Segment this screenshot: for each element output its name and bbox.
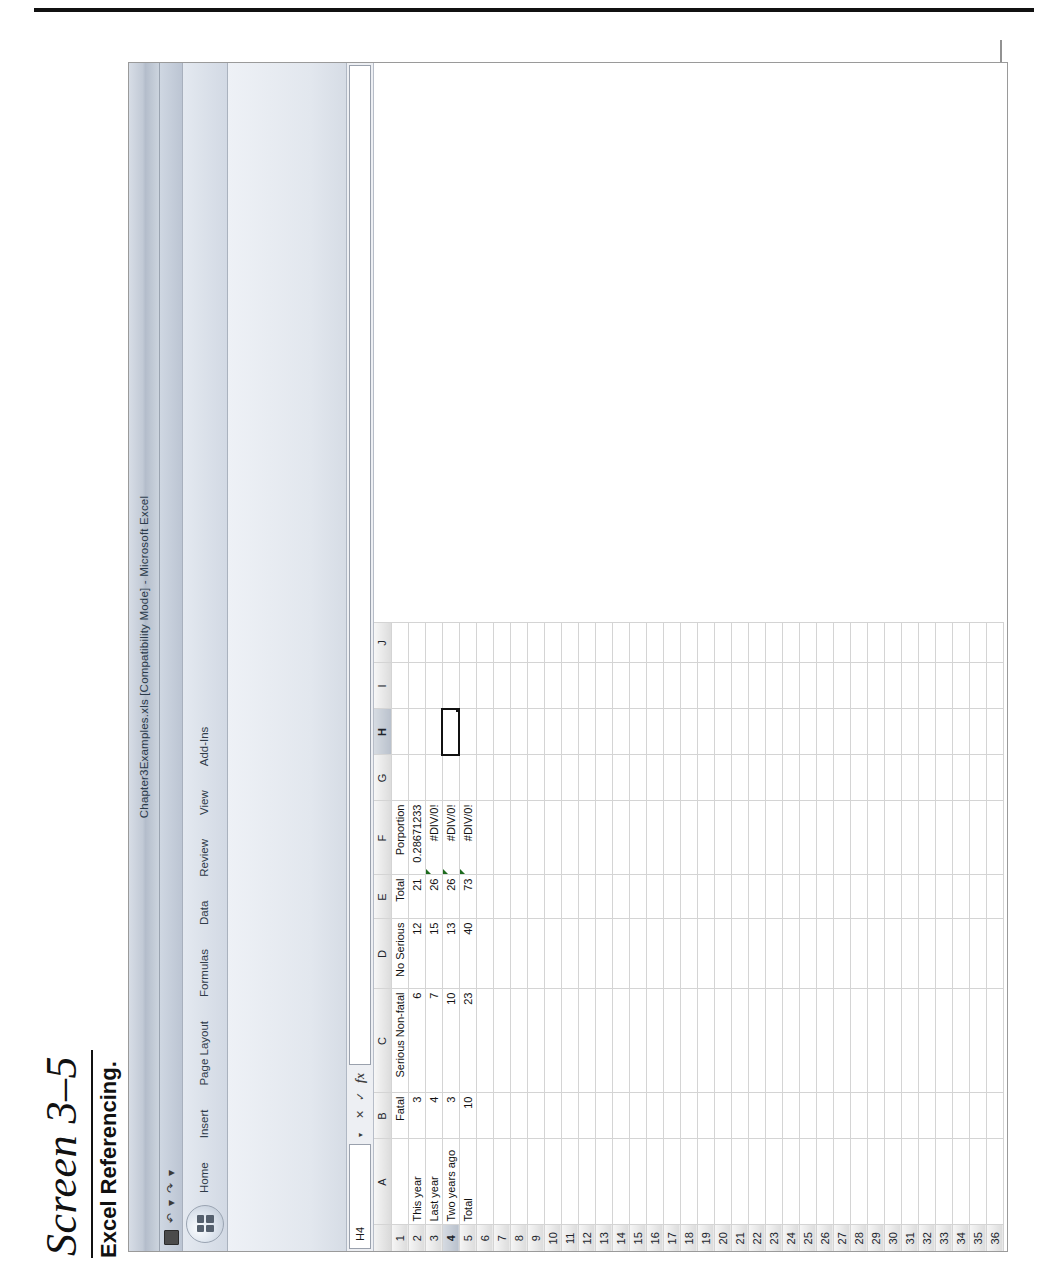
cell-g18[interactable] (680, 755, 697, 801)
cell-d3[interactable]: 15 (425, 919, 442, 989)
cell-i34[interactable] (952, 663, 969, 709)
cell-c13[interactable] (595, 989, 612, 1093)
cell-f3[interactable]: #DIV/0! (425, 801, 442, 875)
cell-i15[interactable] (629, 663, 646, 709)
cell-c29[interactable] (867, 989, 884, 1093)
cell-c18[interactable] (680, 989, 697, 1093)
cell-c22[interactable] (748, 989, 765, 1093)
cell-c8[interactable] (510, 989, 527, 1093)
cell-c6[interactable] (476, 989, 493, 1093)
cell-c1[interactable]: Serious Non-fatal (391, 989, 408, 1093)
sheet-row[interactable]: 24 (782, 623, 799, 1251)
cell-c32[interactable] (918, 989, 935, 1093)
cell-i10[interactable] (544, 663, 561, 709)
row-header-15[interactable]: 15 (629, 1225, 646, 1251)
cell-b15[interactable] (629, 1093, 646, 1139)
row-header-21[interactable]: 21 (731, 1225, 748, 1251)
cell-h16[interactable] (646, 709, 663, 755)
cell-f12[interactable] (578, 801, 595, 875)
cell-a15[interactable] (629, 1139, 646, 1225)
sheet-row[interactable]: 15 (629, 623, 646, 1251)
row-header-19[interactable]: 19 (697, 1225, 714, 1251)
cell-b25[interactable] (799, 1093, 816, 1139)
cell-h6[interactable] (476, 709, 493, 755)
cell-g8[interactable] (510, 755, 527, 801)
cell-e18[interactable] (680, 875, 697, 919)
cell-f35[interactable] (969, 801, 986, 875)
cell-i26[interactable] (816, 663, 833, 709)
cell-g26[interactable] (816, 755, 833, 801)
cell-i7[interactable] (493, 663, 510, 709)
cell-h34[interactable] (952, 709, 969, 755)
ribbon-tab-strip[interactable]: Home Insert Page Layout Formulas Data Re… (195, 725, 215, 1195)
sheet-row[interactable]: 4Two years ago3101326#DIV/0! (442, 623, 459, 1251)
cell-i8[interactable] (510, 663, 527, 709)
cell-e28[interactable] (850, 875, 867, 919)
cell-c4[interactable]: 10 (442, 989, 459, 1093)
cell-c25[interactable] (799, 989, 816, 1093)
sheet-row[interactable]: 17 (663, 623, 680, 1251)
cell-d17[interactable] (663, 919, 680, 989)
cell-b24[interactable] (782, 1093, 799, 1139)
cell-i19[interactable] (697, 663, 714, 709)
cell-d36[interactable] (986, 919, 1003, 989)
column-header-a[interactable]: A (374, 1139, 391, 1225)
sheet-row[interactable]: 30 (884, 623, 901, 1251)
row-header-27[interactable]: 27 (833, 1225, 850, 1251)
row-header-4[interactable]: 4 (442, 1225, 459, 1251)
cell-a31[interactable] (901, 1139, 918, 1225)
cell-f11[interactable] (561, 801, 578, 875)
cell-i6[interactable] (476, 663, 493, 709)
sheet-row[interactable]: 28 (850, 623, 867, 1251)
cell-e4[interactable]: 26 (442, 875, 459, 919)
row-header-26[interactable]: 26 (816, 1225, 833, 1251)
cell-a35[interactable] (969, 1139, 986, 1225)
cell-f5[interactable]: #DIV/0! (459, 801, 476, 875)
cell-c24[interactable] (782, 989, 799, 1093)
cell-a24[interactable] (782, 1139, 799, 1225)
cell-b31[interactable] (901, 1093, 918, 1139)
cell-d10[interactable] (544, 919, 561, 989)
cell-d25[interactable] (799, 919, 816, 989)
cell-f26[interactable] (816, 801, 833, 875)
cell-f33[interactable] (935, 801, 952, 875)
cell-e7[interactable] (493, 875, 510, 919)
cell-h9[interactable] (527, 709, 544, 755)
cell-f30[interactable] (884, 801, 901, 875)
cell-a6[interactable] (476, 1139, 493, 1225)
cell-g32[interactable] (918, 755, 935, 801)
cell-h36[interactable] (986, 709, 1003, 755)
row-header-9[interactable]: 9 (527, 1225, 544, 1251)
cell-d2[interactable]: 12 (408, 919, 425, 989)
cell-g28[interactable] (850, 755, 867, 801)
office-button-icon[interactable] (186, 1205, 224, 1243)
cell-d15[interactable] (629, 919, 646, 989)
row-header-10[interactable]: 10 (544, 1225, 561, 1251)
cell-e20[interactable] (714, 875, 731, 919)
cell-f1[interactable]: Porportion (391, 801, 408, 875)
cell-e9[interactable] (527, 875, 544, 919)
cell-h33[interactable] (935, 709, 952, 755)
cell-j1[interactable] (391, 623, 408, 663)
cell-h1[interactable] (391, 709, 408, 755)
cell-h2[interactable] (408, 709, 425, 755)
cell-j34[interactable] (952, 623, 969, 663)
cell-j27[interactable] (833, 623, 850, 663)
cell-h7[interactable] (493, 709, 510, 755)
cell-d28[interactable] (850, 919, 867, 989)
cell-d30[interactable] (884, 919, 901, 989)
cell-j5[interactable] (459, 623, 476, 663)
cell-j15[interactable] (629, 623, 646, 663)
cell-g35[interactable] (969, 755, 986, 801)
cell-j3[interactable] (425, 623, 442, 663)
cell-d8[interactable] (510, 919, 527, 989)
cell-a8[interactable] (510, 1139, 527, 1225)
cell-e22[interactable] (748, 875, 765, 919)
cell-g11[interactable] (561, 755, 578, 801)
cell-g20[interactable] (714, 755, 731, 801)
cell-d4[interactable]: 13 (442, 919, 459, 989)
cell-e1[interactable]: Total (391, 875, 408, 919)
cell-b16[interactable] (646, 1093, 663, 1139)
cell-f19[interactable] (697, 801, 714, 875)
cell-g14[interactable] (612, 755, 629, 801)
